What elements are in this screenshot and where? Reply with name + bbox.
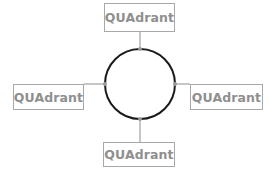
anchor-dot-right <box>173 82 177 86</box>
quadrant-box-bottom: QUAdrant <box>103 142 175 167</box>
quadrant-label-right: QUAdrant <box>192 90 261 105</box>
anchor-dot-left <box>103 82 107 86</box>
quadrant-box-right: QUAdrant <box>190 84 263 110</box>
quadrant-label-left: QUAdrant <box>14 90 83 105</box>
quadrant-box-left: QUAdrant <box>13 84 84 110</box>
anchor-dot-top <box>138 47 142 51</box>
center-circle <box>105 49 175 119</box>
quadrant-box-top: QUAdrant <box>104 3 175 32</box>
quadrant-label-bottom: QUAdrant <box>104 147 173 162</box>
quadrant-label-top: QUAdrant <box>105 10 174 25</box>
anchor-dot-bottom <box>138 117 142 121</box>
